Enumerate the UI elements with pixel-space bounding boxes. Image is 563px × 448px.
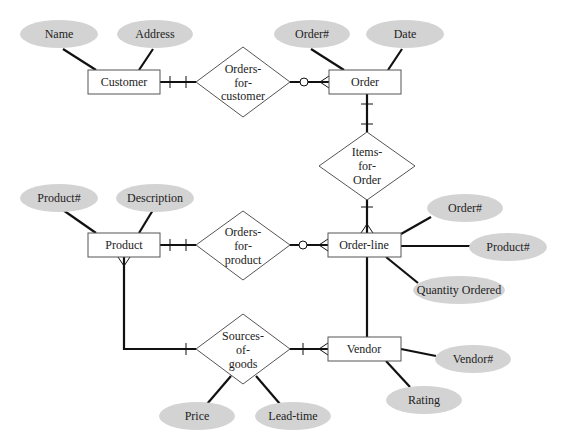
- svg-text:Description: Description: [127, 191, 183, 205]
- attribute-date: Date: [366, 20, 444, 48]
- svg-text:for-: for-: [234, 76, 252, 90]
- connector-vendor-vendornum: [401, 349, 436, 356]
- relationship-items-for-order: Items- for- Order: [319, 132, 415, 200]
- svg-text:of-: of-: [236, 343, 250, 357]
- attribute-orderline-product-number: Product#: [469, 233, 547, 261]
- entity-vendor: Vendor: [328, 337, 401, 361]
- connector-sog-price: [207, 376, 231, 404]
- svg-text:Orders-: Orders-: [225, 62, 262, 76]
- svg-text:Quantity Ordered: Quantity Ordered: [417, 283, 501, 297]
- connector-ordernum-order: [311, 49, 344, 70]
- svg-text:Sources-: Sources-: [222, 329, 264, 343]
- svg-text:Price: Price: [185, 409, 210, 423]
- svg-text:product: product: [225, 253, 262, 267]
- attribute-lead-time: Lead-time: [255, 402, 331, 430]
- entity-customer: Customer: [88, 70, 160, 94]
- entity-product: Product: [88, 233, 160, 257]
- svg-text:Order-line: Order-line: [339, 238, 389, 252]
- svg-text:Order: Order: [353, 173, 381, 187]
- relationship-orders-for-product: Orders- for- product: [196, 211, 290, 280]
- attribute-product-number: Product#: [20, 184, 98, 212]
- attribute-vendor-number: Vendor#: [435, 345, 511, 373]
- svg-text:Lead-time: Lead-time: [268, 409, 317, 423]
- svg-text:Product#: Product#: [37, 191, 80, 205]
- connector-description-product: [139, 210, 153, 233]
- svg-text:Name: Name: [45, 27, 74, 41]
- svg-text:Date: Date: [394, 27, 417, 41]
- er-diagram: Name Address Order# Date Product# Descri…: [0, 0, 563, 448]
- attribute-price: Price: [159, 402, 235, 430]
- relationship-orders-for-customer: Orders- for- customer: [196, 47, 290, 117]
- attribute-address: Address: [117, 20, 193, 48]
- svg-text:Vendor#: Vendor#: [453, 352, 494, 366]
- connector-orderline-ordernum: [401, 217, 431, 234]
- connector-name-customer: [63, 49, 96, 70]
- svg-text:for-: for-: [234, 239, 252, 253]
- svg-text:goods: goods: [229, 357, 258, 371]
- connector-vendor-rating: [386, 361, 410, 387]
- svg-text:Order: Order: [351, 75, 379, 89]
- attribute-description: Description: [116, 184, 194, 212]
- svg-text:Items-: Items-: [352, 145, 383, 159]
- connector-date-order: [388, 49, 402, 70]
- svg-text:Order#: Order#: [295, 27, 329, 41]
- attribute-orderline-order-number: Order#: [427, 194, 503, 222]
- svg-text:Vendor: Vendor: [347, 342, 382, 356]
- attribute-rating: Rating: [386, 386, 462, 414]
- svg-text:customer: customer: [221, 89, 265, 103]
- attribute-name: Name: [20, 20, 98, 48]
- entity-order: Order: [329, 70, 401, 94]
- svg-text:Rating: Rating: [408, 393, 440, 407]
- connector-address-customer: [139, 49, 153, 70]
- attribute-quantity-ordered: Quantity Ordered: [413, 276, 505, 304]
- svg-text:Orders-: Orders-: [225, 225, 262, 239]
- attribute-order-number: Order#: [274, 20, 350, 48]
- connector-orderline-quantity: [386, 257, 418, 283]
- connector-sog-leadtime: [256, 376, 280, 404]
- relationship-sources-of-goods: Sources- of- goods: [196, 314, 290, 384]
- svg-text:Order#: Order#: [448, 201, 482, 215]
- svg-text:Address: Address: [135, 27, 175, 41]
- svg-text:Product#: Product#: [486, 240, 529, 254]
- connector-productnum-product: [63, 210, 96, 233]
- entity-order-line: Order-line: [328, 233, 401, 257]
- svg-text:for-: for-: [358, 159, 376, 173]
- connector-product-sog: [124, 257, 196, 349]
- svg-text:Customer: Customer: [101, 75, 148, 89]
- svg-text:Product: Product: [105, 238, 143, 252]
